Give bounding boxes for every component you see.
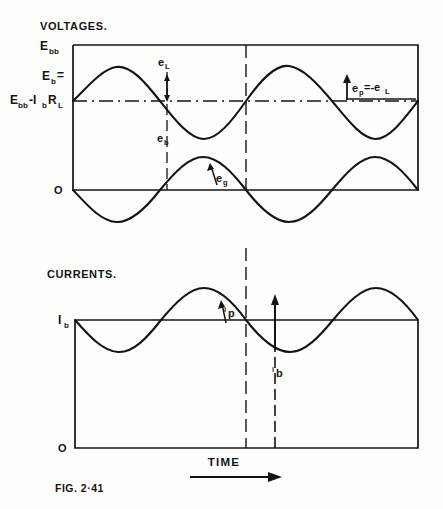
annotation-eb: e b xyxy=(157,132,169,147)
plate-current-arrow-head xyxy=(271,294,279,305)
annotation-ib: i b xyxy=(272,365,283,379)
svg-text:E: E xyxy=(40,39,48,53)
svg-text:bb: bb xyxy=(18,101,28,110)
annotation-el: e L xyxy=(158,56,170,71)
time-axis-label: TIME xyxy=(208,456,240,468)
axis-label-ib: I b xyxy=(58,313,69,330)
svg-text:=: = xyxy=(57,68,64,82)
svg-text:I: I xyxy=(58,313,61,327)
svg-text:e: e xyxy=(216,172,222,184)
currents-panel-title: CURRENTS. xyxy=(47,268,117,280)
figure-vacuum-tube-waveforms: VOLTAGES. E bb E b = E bb -I b R L O e L xyxy=(0,0,443,509)
svg-text:E: E xyxy=(42,69,50,83)
svg-text:=-e: =-e xyxy=(364,81,380,93)
svg-text:i: i xyxy=(272,365,274,374)
svg-text:b: b xyxy=(276,367,283,379)
axis-label-eb: E b = xyxy=(42,68,64,86)
voltages-origin-label: O xyxy=(54,184,63,196)
time-axis: TIME xyxy=(190,456,282,482)
svg-text:b: b xyxy=(164,138,169,147)
svg-text:-I: -I xyxy=(29,93,36,107)
svg-text:e: e xyxy=(157,132,163,144)
svg-text:b: b xyxy=(64,321,69,330)
load-voltage-arrow-head-up xyxy=(164,74,170,81)
svg-text:L: L xyxy=(58,101,63,110)
svg-text:e: e xyxy=(352,82,358,94)
annotation-ep: e p =-e L xyxy=(352,81,390,97)
svg-text:e: e xyxy=(158,56,164,68)
svg-text:R: R xyxy=(48,93,57,107)
svg-text:E: E xyxy=(10,93,18,107)
svg-text:p: p xyxy=(228,307,235,319)
axis-label-ebb-minus-ibrl: E bb -I b R L xyxy=(10,93,63,110)
waveform-svg: VOLTAGES. E bb E b = E bb -I b R L O e L xyxy=(0,0,443,509)
svg-text:i: i xyxy=(224,305,226,314)
figure-caption: FIG. 2·41 xyxy=(55,482,104,494)
currents-origin-label: O xyxy=(58,442,67,454)
axis-label-ebb: E bb xyxy=(40,39,59,56)
svg-text:L: L xyxy=(385,87,390,96)
annotation-ip: i p xyxy=(224,305,235,319)
svg-text:b: b xyxy=(42,101,47,110)
time-arrow-head xyxy=(268,472,282,482)
annotation-eg: e g xyxy=(216,172,228,187)
svg-text:g: g xyxy=(223,178,228,187)
voltages-panel: VOLTAGES. E bb E b = E bb -I b R L O e L xyxy=(10,20,418,222)
svg-text:bb: bb xyxy=(49,47,59,56)
plate-signal-voltage-arrow-head xyxy=(343,74,351,83)
svg-text:L: L xyxy=(165,62,170,71)
currents-panel: CURRENTS. I b O i p i b xyxy=(47,248,418,454)
voltages-panel-title: VOLTAGES. xyxy=(40,20,107,32)
svg-text:b: b xyxy=(51,77,56,86)
